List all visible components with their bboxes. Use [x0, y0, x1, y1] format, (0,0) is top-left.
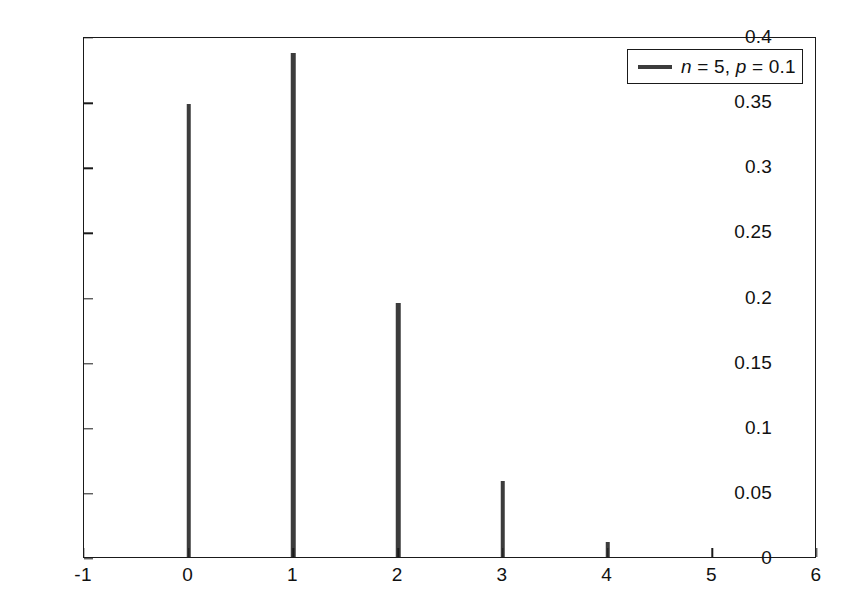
y-tick-label-0: 0	[761, 547, 772, 569]
legend-box: n = 5, p = 0.1	[627, 49, 803, 84]
x-tick-label-0: -1	[74, 564, 91, 586]
x-tick-label-4: 3	[496, 564, 507, 586]
x-tick-label-3: 2	[392, 564, 403, 586]
y-tick-label-8: 0.4	[745, 26, 772, 48]
x-tick-label-5: 4	[601, 564, 612, 586]
x-tick-label-7: 6	[811, 564, 822, 586]
y-tick-label-5: 0.25	[734, 221, 772, 243]
y-axis-tick-labels: 00.050.10.150.20.250.30.350.4	[0, 0, 846, 613]
legend-line-swatch	[638, 65, 672, 69]
y-tick-label-3: 0.15	[734, 352, 772, 374]
legend-n-symbol: n	[681, 56, 692, 77]
legend-n-value: = 5,	[692, 56, 736, 77]
y-tick-label-6: 0.3	[745, 156, 772, 178]
y-tick-label-1: 0.05	[734, 482, 772, 504]
legend-p-value: = 0.1	[747, 56, 796, 77]
x-tick-label-1: 0	[182, 564, 193, 586]
x-tick-label-2: 1	[287, 564, 298, 586]
legend-entry-label: n = 5, p = 0.1	[681, 57, 796, 77]
figure-canvas: 00.050.10.150.20.250.30.350.4 -10123456 …	[0, 0, 846, 613]
y-tick-label-2: 0.1	[745, 417, 772, 439]
legend-p-symbol: p	[736, 56, 747, 77]
y-tick-label-7: 0.35	[734, 91, 772, 113]
x-tick-label-6: 5	[706, 564, 717, 586]
y-tick-label-4: 0.2	[745, 287, 772, 309]
